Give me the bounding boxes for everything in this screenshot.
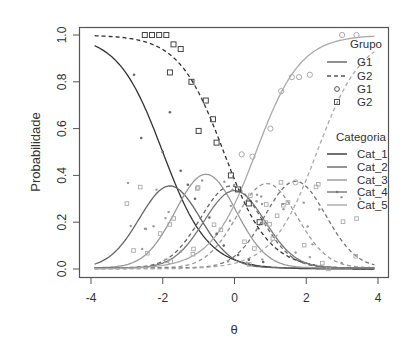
observed-dot-point — [303, 201, 305, 203]
x-tick-label: 4 — [375, 291, 382, 305]
observed-dot-point — [340, 196, 342, 198]
observed-dot-point — [229, 219, 231, 221]
y-tick-label: 0.2 — [55, 214, 69, 231]
x-axis: -4-2024 — [86, 278, 382, 306]
x-axis-label: θ — [230, 322, 237, 337]
y-tick-label: 0.8 — [55, 73, 69, 90]
observed-dot-point — [233, 184, 235, 186]
observed-dot-point — [152, 225, 154, 227]
observed-dot-point — [153, 266, 155, 268]
observed-dot-point — [164, 217, 166, 219]
observed-dot-point — [144, 228, 146, 230]
y-tick-label: 0.0 — [55, 260, 69, 277]
x-tick-label: -4 — [86, 291, 97, 305]
observed-dot-point — [208, 216, 211, 219]
y-tick-label: 1.0 — [55, 26, 69, 43]
legend-grupo-title: Grupo — [350, 38, 382, 50]
observed-dot-point — [260, 195, 262, 197]
legend-item-label: Cat_2 — [357, 161, 388, 173]
observed-dot-point — [187, 183, 190, 186]
legend-item-label: Cat_3 — [357, 174, 388, 186]
observed-dot-point — [169, 111, 172, 114]
legend-item-label: Cat_1 — [357, 148, 388, 160]
observed-dot-point — [311, 243, 313, 245]
x-tick-label: 0 — [231, 291, 238, 305]
observed-dot-point — [261, 203, 263, 205]
item-response-chart: 0.00.20.40.60.81.0 -4-2024 Probabilidade… — [0, 0, 407, 357]
observed-dot-point — [130, 225, 132, 227]
observed-dot-point — [133, 73, 136, 76]
observed-dot-point — [262, 261, 265, 264]
observed-dot-point — [318, 208, 320, 210]
legend-item-label: Cat_5 — [357, 199, 388, 211]
legend-item-label: G1 — [357, 56, 372, 68]
legend-item-label: G1 — [357, 83, 372, 95]
observed-dot-point — [256, 194, 258, 196]
legend-item-label: Cat_4 — [357, 186, 388, 198]
observed-dot-point — [194, 198, 197, 201]
observed-dot-point — [230, 205, 232, 207]
observed-dot-point — [141, 248, 143, 250]
observed-dot-point — [180, 250, 182, 252]
y-tick-label: 0.6 — [55, 120, 69, 137]
observed-dot-point — [227, 260, 229, 262]
legend-categoria-title: Categoria — [336, 131, 386, 143]
observed-dot-point — [248, 258, 251, 261]
observed-dot-point — [223, 181, 225, 183]
y-axis: 0.00.20.40.60.81.0 — [55, 26, 80, 277]
observed-dot-point — [155, 188, 157, 190]
observed-dot-point — [282, 203, 284, 205]
observed-dot-point — [161, 151, 164, 154]
y-tick-label: 0.4 — [55, 167, 69, 184]
observed-dot-point — [309, 256, 311, 258]
observed-dot-point — [201, 179, 203, 181]
legend-item-label: G2 — [357, 96, 372, 108]
observed-dot-point — [215, 233, 218, 236]
legend-item-label: G2 — [357, 70, 372, 82]
x-tick-label: -2 — [157, 291, 168, 305]
observed-dot-point — [127, 182, 129, 184]
observed-dot-point — [231, 188, 233, 190]
observed-dot-point — [140, 137, 143, 140]
observed-dot-point — [341, 262, 343, 264]
observed-dot-point — [294, 251, 296, 253]
x-tick-label: 2 — [303, 291, 310, 305]
observed-dot-point — [255, 200, 257, 202]
observed-dot-point — [261, 258, 263, 260]
observed-dot-point — [306, 225, 308, 227]
observed-dot-point — [282, 208, 284, 210]
observed-dot-point — [222, 244, 225, 247]
observed-dot-point — [237, 254, 240, 257]
legend-cat4-point-icon — [336, 191, 339, 194]
y-axis-label: Probabilidade — [28, 112, 43, 192]
observed-dot-point — [167, 211, 169, 213]
observed-dot-point — [179, 169, 182, 172]
